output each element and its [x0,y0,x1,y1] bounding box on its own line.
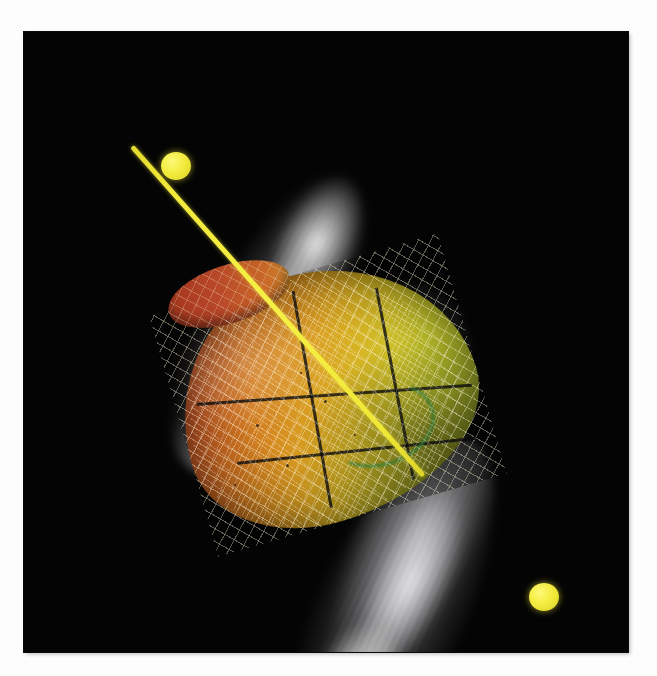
lower-lobe-filaments [279,431,515,652]
isosurface-mesh [149,233,506,556]
colored-isosurface [149,233,506,556]
render-panel [24,32,628,652]
isosurface-net [156,244,490,553]
rotation-axis-lower-knot [529,583,559,611]
surface-speck [256,424,259,427]
isosurface-fill [149,233,506,556]
panel-seam [196,384,472,406]
wireframe-veil-layer [24,32,628,652]
surface-speck [354,434,356,436]
lower-lobe [259,408,539,652]
rotation-axis-layer [24,32,628,652]
upper-lobe [138,148,405,502]
panel-seam [375,288,415,480]
panel-seam [237,437,476,465]
figure-root [0,0,657,676]
surface-speck [286,464,289,467]
wireframe-veil [293,258,497,474]
isosurface-green-rim [314,369,446,482]
surface-speck [300,372,302,374]
isosurface-layer [24,32,628,652]
cap-ring-mesh [160,247,298,341]
rotation-axis-upper-knot [161,152,191,180]
panel-seam [292,291,333,508]
surface-speck [234,484,236,486]
isosurface-shading [149,233,506,556]
isosurface-cap-ring [160,247,298,341]
outflow-lobes-layer [24,32,628,652]
rotation-axis-line [130,145,425,478]
3d-scene [24,32,628,652]
surface-speck [324,400,327,403]
upper-lobe-filaments [158,175,385,486]
